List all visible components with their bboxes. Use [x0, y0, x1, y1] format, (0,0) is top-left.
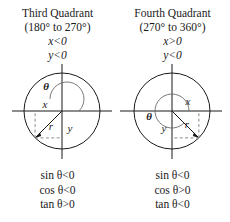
panel-signs-fourth: sin θ<0 cos θ>0 tan θ<0	[115, 168, 230, 212]
panel-title: Fourth Quadrant	[115, 6, 230, 20]
angle-arc	[50, 82, 84, 111]
sign-sin: sin θ<0	[115, 168, 230, 183]
theta-label: θ	[43, 80, 49, 92]
x-label: x	[185, 95, 191, 107]
panel-signs-third: sin θ<0 cos θ<0 tan θ>0	[0, 168, 115, 212]
panel-condition-x: x>0	[115, 34, 230, 48]
sign-tan: tan θ<0	[115, 197, 230, 212]
y-label: y	[161, 122, 167, 134]
unit-circle-diagram-fourth: θ x y r	[115, 62, 230, 162]
sign-cos: cos θ>0	[115, 183, 230, 198]
x-label: x	[42, 98, 48, 110]
panel-condition-x: x<0	[0, 34, 115, 48]
panel-header-fourth: Fourth Quadrant (270° to 360°) x>0 y<0	[115, 6, 230, 62]
panel-condition-y: y<0	[115, 48, 230, 62]
panel-condition-y: y<0	[0, 48, 115, 62]
panel-title: Third Quadrant	[0, 6, 115, 20]
panel-third-quadrant: Third Quadrant (180° to 270°) x<0 y<0	[0, 0, 115, 222]
r-label: r	[49, 120, 54, 132]
panel-angle-range: (180° to 270°)	[0, 20, 115, 34]
r-label: r	[185, 118, 190, 130]
sign-sin: sin θ<0	[0, 168, 115, 183]
sign-tan: tan θ>0	[0, 197, 115, 212]
quadrant-figure: Third Quadrant (180° to 270°) x<0 y<0	[0, 0, 230, 222]
panel-header-third: Third Quadrant (180° to 270°) x<0 y<0	[0, 6, 115, 62]
sign-cos: cos θ<0	[0, 183, 115, 198]
panel-angle-range: (270° to 360°)	[115, 20, 230, 34]
unit-circle-diagram-third: θ x y r	[0, 62, 115, 162]
y-label: y	[67, 122, 73, 134]
theta-label: θ	[146, 110, 152, 122]
panel-fourth-quadrant: Fourth Quadrant (270° to 360°) x>0 y<0	[115, 0, 230, 222]
